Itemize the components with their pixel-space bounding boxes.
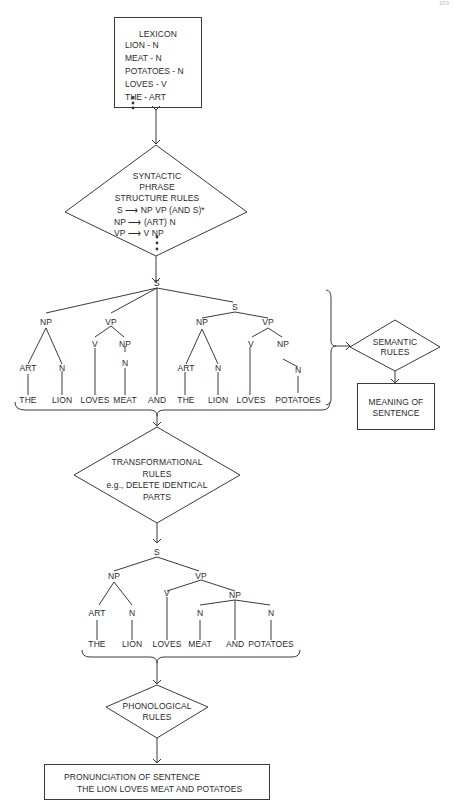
- rule-lhs: NP: [114, 217, 126, 227]
- lexicon-entry: THE - ART: [125, 91, 184, 104]
- semantic-title-2: RULES: [381, 348, 410, 357]
- meaning-line-1: MEANING OF: [369, 398, 424, 407]
- tree-node: N: [197, 609, 203, 618]
- tree-word: POTATOES: [248, 640, 294, 649]
- tree-word: LION: [122, 640, 142, 649]
- tree-node: NP: [119, 340, 131, 349]
- pronunciation-line-2: THE LION LOVES MEAT AND POTATOES: [77, 785, 242, 794]
- lexicon-entry: MEAT - N: [125, 52, 184, 65]
- syntactic-title-1: SYNTACTIC: [133, 172, 181, 181]
- tree-word: THE: [177, 396, 194, 405]
- tree-node: VP: [262, 318, 274, 327]
- arrow-right-icon: ⟶: [128, 228, 141, 238]
- tree-word: LION: [52, 396, 72, 405]
- transformational-line-3: e.g., DELETE IDENTICAL: [107, 481, 208, 490]
- rule-np: NP ⟶ (ART) N: [114, 218, 176, 227]
- tree-node: N: [295, 366, 301, 375]
- tree-node: ART: [88, 609, 105, 618]
- rule-vp: VP ⟶ V NP: [114, 229, 164, 238]
- tree-node: VP: [105, 318, 117, 327]
- transformational-line-2: RULES: [143, 470, 172, 479]
- tree-node: NP: [277, 340, 289, 349]
- rule-s: S ⟶ NP VP (AND S)*: [117, 206, 205, 215]
- tree-node: S: [154, 548, 160, 557]
- tree-word: AND: [226, 640, 244, 649]
- transformational-line-4: PARTS: [143, 493, 171, 502]
- semantic-title-1: SEMANTIC: [373, 338, 418, 347]
- tree-word: POTATOES: [275, 396, 321, 405]
- arrow-right-icon: ⟶: [128, 217, 141, 227]
- transformational-line-1: TRANSFORMATIONAL: [111, 458, 202, 467]
- rule-rhs: (ART) N: [144, 217, 176, 227]
- tree-node: N: [59, 364, 65, 373]
- tree-node: V: [164, 589, 170, 598]
- tree-word: LOVES: [237, 396, 266, 405]
- tree-node: ART: [177, 364, 194, 373]
- tree-word: LOVES: [81, 396, 110, 405]
- arrow-right-icon: ⟶: [125, 205, 138, 215]
- tree-word: THE: [88, 640, 105, 649]
- rule-rhs: NP VP (AND S)*: [141, 205, 205, 215]
- tree-node: N: [268, 609, 274, 618]
- tree-node: V: [248, 340, 254, 349]
- tree-node: N: [215, 364, 221, 373]
- tree-node: ART: [19, 364, 36, 373]
- lexicon-title: LEXICON: [139, 30, 177, 39]
- tree-node: S: [154, 279, 160, 288]
- pronunciation-line-1: PRONUNCIATION OF SENTENCE: [64, 773, 200, 782]
- tree-word: THE: [19, 396, 36, 405]
- tree-node: N: [129, 609, 135, 618]
- lexicon-entry: POTATOES - N: [125, 65, 184, 78]
- tree-word: MEAT: [113, 396, 136, 405]
- phonological-line-1: PHONOLOGICAL: [122, 702, 191, 711]
- tree-word: AND: [148, 396, 166, 405]
- lexicon-entry: LOVES - V: [125, 78, 184, 91]
- tree-node: NP: [108, 572, 120, 581]
- rule-rhs: V NP: [143, 228, 163, 238]
- tree-node: V: [92, 340, 98, 349]
- tree-word: LOVES: [153, 640, 182, 649]
- tree-node: VP: [195, 572, 207, 581]
- tree-word: MEAT: [188, 640, 211, 649]
- lexicon-entries: LION - N MEAT - N POTATOES - N LOVES - V…: [125, 39, 184, 104]
- syntactic-title-2: PHRASE: [139, 183, 175, 192]
- tree-node: NP: [196, 318, 208, 327]
- pronunciation-box: [45, 765, 270, 800]
- tree-node: S: [232, 303, 238, 312]
- syntactic-title-3: STRUCTURE RULES: [115, 194, 200, 203]
- tree-node: NP: [40, 318, 52, 327]
- lexicon-entry: LION - N: [125, 39, 184, 52]
- rule-lhs: VP: [114, 228, 125, 238]
- meaning-line-2: SENTENCE: [372, 409, 419, 418]
- rule-lhs: S: [117, 205, 123, 215]
- tree-node: NP: [229, 591, 241, 600]
- tree-word: LION: [208, 396, 228, 405]
- phonological-line-2: RULES: [143, 713, 172, 722]
- tree-node: N: [122, 359, 128, 368]
